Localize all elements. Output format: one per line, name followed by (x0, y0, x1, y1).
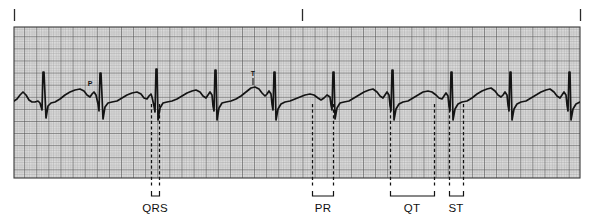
ecg-strip-svg: QRS PR QT ST P T (0, 0, 592, 221)
interval-label-st: ST (448, 202, 463, 214)
interval-label-qt: QT (404, 202, 420, 214)
interval-label-qrs: QRS (142, 202, 168, 214)
ecg-figure-container: QRS PR QT ST P T (0, 0, 592, 221)
wave-label-p: P (88, 80, 93, 87)
interval-label-pr: PR (315, 202, 331, 214)
wave-label-t: T (251, 70, 256, 77)
